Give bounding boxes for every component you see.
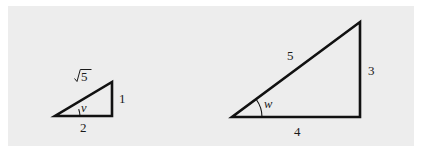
small-triangle-hypotenuse-label: 5 (75, 69, 92, 84)
large-triangle-angle-label: w (264, 97, 273, 111)
large-triangle-vertical-label: 3 (368, 63, 375, 78)
small-triangle: v 5 1 2 (55, 69, 126, 135)
geometry-figure: v 5 1 2 w 5 3 4 (0, 0, 422, 152)
large-triangle-angle-arc (256, 100, 262, 118)
figure-root: v 5 1 2 w 5 3 4 (0, 0, 422, 152)
small-triangle-radicand: 5 (81, 69, 88, 84)
large-triangle-base-label: 4 (294, 124, 301, 139)
small-triangle-vertical-label: 1 (119, 91, 126, 106)
small-triangle-angle-label: v (81, 101, 87, 115)
large-triangle: w 5 3 4 (232, 22, 375, 139)
large-triangle-outline (232, 22, 360, 117)
small-triangle-base-label: 2 (80, 120, 87, 135)
large-triangle-hypotenuse-label: 5 (287, 48, 294, 63)
